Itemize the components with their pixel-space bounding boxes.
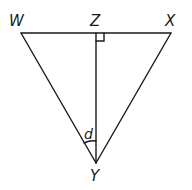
label-angle-d: d bbox=[84, 126, 93, 142]
segment-wy bbox=[21, 33, 96, 163]
right-angle-marker bbox=[96, 33, 104, 41]
label-z: Z bbox=[89, 12, 101, 30]
label-y: Y bbox=[90, 167, 101, 185]
segment-xy bbox=[96, 33, 171, 163]
label-x: X bbox=[164, 12, 176, 30]
triangle-diagram: W Z X Y d bbox=[0, 0, 192, 190]
label-w: W bbox=[9, 12, 25, 30]
